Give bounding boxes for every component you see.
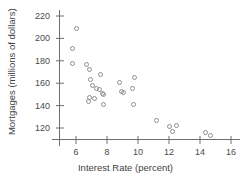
data-point [86,99,91,104]
x-tick-label: 8 [104,148,109,157]
data-point [87,67,92,72]
plot-area: 120140160180200220 6810121416 Mortgages … [0,0,251,180]
data-point [203,130,208,135]
y-tick-label: 120 [22,124,50,133]
x-axis-title: Interest Rate (percent) [0,163,251,173]
x-tick-label: 6 [73,148,78,157]
y-tick-label: 180 [22,56,50,65]
data-point [70,46,75,51]
data-point [121,90,126,95]
data-point [131,102,136,107]
y-tick-label: 220 [22,12,50,21]
data-point [74,26,79,31]
data-point [132,75,137,80]
x-tick-label: 10 [133,148,143,157]
x-tick-label: 12 [164,148,174,157]
x-tick-label: 16 [226,148,236,157]
y-axis-title: Mortgages (millions of dollars) [7,7,17,137]
data-point [101,102,106,107]
x-tick-label: 14 [195,148,205,157]
data-point [101,92,106,97]
y-tick-label: 200 [22,34,50,43]
data-point [154,118,159,123]
y-tick-label: 140 [22,101,50,110]
data-point [170,129,175,134]
y-tick-label: 160 [22,79,50,88]
data-point [117,80,122,85]
data-point [70,61,75,66]
scatter-plot-figure: 120140160180200220 6810121416 Mortgages … [0,0,251,180]
